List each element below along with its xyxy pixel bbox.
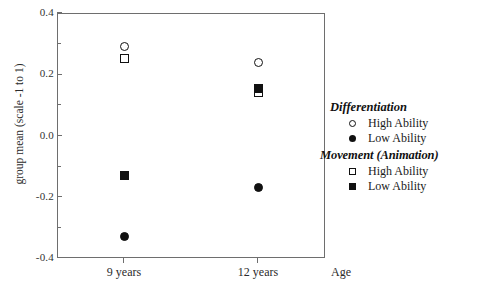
legend-item-movement-high[interactable]: High Ability: [342, 164, 482, 179]
y-axis-title: group mean (scale -1 to 1): [13, 19, 25, 229]
data-point-open-square: [120, 54, 129, 63]
legend-label-differentiation-high: High Ability: [368, 116, 428, 131]
legend-label-movement-high: High Ability: [368, 164, 428, 179]
legend-title-movement: Movement (Animation): [320, 148, 482, 163]
filled-circle-icon: [342, 135, 362, 142]
y-tick-label: 0.4: [28, 6, 54, 18]
y-tick-label: -0.4: [28, 251, 54, 263]
legend-group-movement: Movement (Animation) High Ability Low Ab…: [330, 148, 482, 194]
y-tick-label: 0.0: [28, 129, 54, 141]
y-tick-mark: [57, 257, 62, 258]
x-tick-mark: [123, 258, 124, 263]
legend-item-differentiation-high[interactable]: High Ability: [342, 116, 482, 131]
figure-canvas: 0.40.20.0-0.2-0.4 group mean (scale -1 t…: [0, 0, 483, 292]
data-point-filled-square: [254, 84, 263, 93]
y-tick-mark: [57, 74, 62, 75]
open-square-icon: [342, 168, 362, 175]
y-tick-label: 0.2: [28, 67, 54, 79]
y-tick-mark-minor: [57, 43, 61, 44]
data-point-filled-circle: [120, 232, 129, 241]
data-point-open-circle: [254, 58, 263, 67]
legend-group-differentiation: Differentiation High Ability Low Ability: [330, 100, 482, 146]
legend-item-movement-low[interactable]: Low Ability: [342, 179, 482, 194]
y-tick-label: -0.2: [28, 190, 54, 202]
plot-frame: [57, 13, 325, 258]
y-tick-mark-minor: [57, 227, 61, 228]
y-tick-mark-minor: [57, 166, 61, 167]
x-axis-title: Age: [331, 265, 351, 280]
x-tick-mark: [257, 258, 258, 263]
filled-square-icon: [342, 183, 362, 190]
legend-label-differentiation-low: Low Ability: [368, 131, 426, 146]
legend: Differentiation High Ability Low Ability…: [330, 100, 482, 196]
legend-item-differentiation-low[interactable]: Low Ability: [342, 131, 482, 146]
x-tick-label: 9 years: [79, 265, 169, 280]
data-point-filled-square: [120, 171, 129, 180]
y-tick-mark: [57, 12, 62, 13]
data-point-filled-circle: [254, 183, 263, 192]
y-tick-mark-minor: [57, 104, 61, 105]
legend-label-movement-low: Low Ability: [368, 179, 426, 194]
open-circle-icon: [342, 120, 362, 127]
x-tick-label: 12 years: [213, 265, 303, 280]
legend-title-differentiation: Differentiation: [330, 100, 482, 115]
data-point-open-circle: [120, 42, 129, 51]
y-tick-mark: [57, 135, 62, 136]
y-tick-mark: [57, 196, 62, 197]
